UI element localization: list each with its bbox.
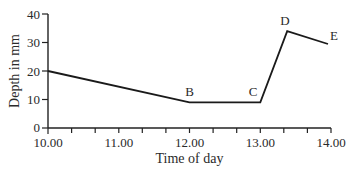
point-label-c: C — [249, 84, 258, 99]
y-ticks — [42, 14, 48, 128]
y-tick-label: 0 — [34, 120, 41, 135]
x-ticks — [48, 128, 331, 134]
point-label-b: B — [185, 84, 194, 99]
y-tick-label: 30 — [27, 35, 40, 50]
x-axis-title: Time of day — [156, 151, 224, 166]
chart-svg: 0 10 20 30 40 10.00 11.00 12.00 — [0, 0, 356, 174]
y-tick-label: 10 — [27, 92, 40, 107]
x-tick-labels: 10.00 11.00 12.00 13.00 14.00 — [33, 135, 345, 150]
line-chart: 0 10 20 30 40 10.00 11.00 12.00 — [0, 0, 356, 174]
x-tick-label: 12.00 — [175, 135, 204, 150]
y-tick-label: 40 — [27, 7, 40, 22]
y-axis-title: Depth in mm — [7, 34, 22, 108]
x-tick-label: 11.00 — [104, 135, 133, 150]
x-tick-label: 14.00 — [316, 135, 345, 150]
y-tick-labels: 0 10 20 30 40 — [27, 7, 40, 136]
x-tick-label: 10.00 — [33, 135, 62, 150]
y-tick-label: 20 — [27, 64, 40, 79]
x-tick-label: 13.00 — [246, 135, 275, 150]
point-label-e: E — [330, 28, 338, 43]
point-label-d: D — [280, 13, 289, 28]
